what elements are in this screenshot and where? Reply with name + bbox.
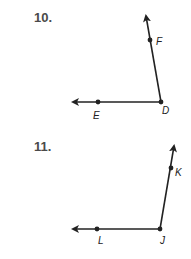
label-F: F (156, 36, 163, 47)
ray-DF (146, 16, 161, 102)
ray-JK (160, 146, 174, 229)
label-L: L (98, 235, 104, 246)
point-L (95, 227, 100, 232)
point-J (158, 227, 163, 232)
point-F (148, 38, 153, 43)
label-E: E (93, 110, 100, 121)
point-D (159, 100, 164, 105)
angle-FDE: F E D (73, 16, 169, 121)
label-D: D (162, 105, 169, 116)
label-K: K (175, 167, 183, 178)
point-K (169, 166, 174, 171)
angle-KJL: K L J (73, 146, 183, 246)
point-E (96, 100, 101, 105)
label-J: J (159, 235, 166, 246)
angle-diagrams: F E D K L J (0, 0, 191, 259)
